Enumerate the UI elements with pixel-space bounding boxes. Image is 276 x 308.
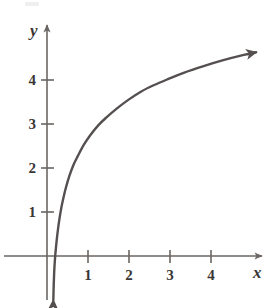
y-tick-label-1: 1 <box>20 205 36 220</box>
y-tick-label-2: 2 <box>20 161 36 176</box>
x-tick-label-4: 4 <box>202 268 220 283</box>
logarithmic-curve <box>53 52 256 300</box>
x-axis-label: x <box>253 264 262 281</box>
y-tick-label-4: 4 <box>20 73 36 88</box>
y-tick-label-3: 3 <box>20 117 36 132</box>
plot-canvas <box>0 0 276 308</box>
x-tick-label-3: 3 <box>161 268 179 283</box>
x-tick-label-2: 2 <box>120 268 138 283</box>
y-axis-label: y <box>30 22 38 39</box>
x-tick-label-1: 1 <box>79 268 97 283</box>
graph-figure: 1 2 3 4 1 2 3 4 y x <box>0 0 276 308</box>
